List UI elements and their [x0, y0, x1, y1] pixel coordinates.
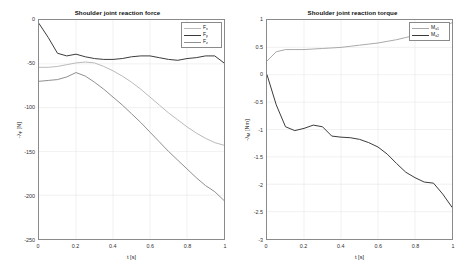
y-tick-torque: -1.5 [242, 154, 263, 160]
y-tick-force: -150 [14, 149, 35, 155]
x-tick-force: 0.6 [146, 243, 154, 249]
y-tick-torque: 0.5 [242, 44, 263, 50]
x-tick-torque: 0.8 [412, 243, 420, 249]
x-tick-force: 1 [224, 243, 227, 249]
legend-torque[interactable]: Mx1 Mx2 [409, 22, 450, 41]
y-tick-torque: -3 [242, 237, 263, 243]
x-tick-torque: 0 [265, 243, 268, 249]
x-tick-force: 0.8 [184, 243, 192, 249]
y-tick-force: -50 [14, 60, 35, 66]
legend-item-Fx[interactable]: Fx [184, 25, 219, 32]
y-tick-torque: -0.5 [242, 99, 263, 105]
x-tick-force: 0 [37, 243, 40, 249]
x-tick-force: 0.4 [109, 243, 117, 249]
plot-area-force [38, 19, 225, 240]
legend-item-Fy[interactable]: Fy [184, 32, 219, 39]
legend-swatch-Fz [184, 42, 201, 43]
y-tick-force: -250 [14, 237, 35, 243]
panel-shoulder-joint-reaction-torque: Shoulder joint reaction torque 10.50-0.5… [235, 0, 470, 273]
x-tick-torque: 0.4 [337, 243, 345, 249]
y-tick-torque: -2 [242, 182, 263, 188]
plot-canvas-torque [267, 20, 452, 239]
x-axis-label-force: t [s] [127, 254, 136, 260]
y-tick-torque: 0 [242, 71, 263, 77]
legend-swatch-Mx1 [412, 28, 429, 29]
y-tick-force: -100 [14, 104, 35, 110]
legend-label-Mx2: Mx2 [431, 32, 439, 39]
x-tick-torque: 0.6 [374, 243, 382, 249]
legend-label-Fz: Fz [203, 39, 208, 46]
legend-item-Fz[interactable]: Fz [184, 39, 219, 46]
x-tick-force: 0.2 [72, 243, 80, 249]
chart-title-force: Shoulder joint reaction force [0, 9, 235, 16]
x-tick-torque: 0.2 [300, 243, 308, 249]
y-axis-label-torque: -λM [Nm] [244, 113, 251, 147]
chart-title-torque: Shoulder joint reaction torque [235, 9, 470, 16]
y-tick-torque: 1 [242, 16, 263, 22]
x-tick-torque: 1 [452, 243, 455, 249]
y-tick-force: 0 [14, 16, 35, 22]
legend-swatch-Fy [184, 35, 201, 36]
legend-item-Mx2[interactable]: Mx2 [412, 32, 447, 39]
x-axis-label-torque: t [s] [355, 254, 364, 260]
legend-swatch-Fx [184, 28, 201, 29]
legend-swatch-Mx2 [412, 35, 429, 36]
plot-area-torque [266, 19, 453, 240]
y-tick-torque: -2.5 [242, 209, 263, 215]
y-tick-force: -200 [14, 193, 35, 199]
plot-canvas-force [39, 20, 224, 239]
panel-shoulder-joint-reaction-force: Shoulder joint reaction force 0-50-100-1… [0, 0, 235, 273]
figure-container: Shoulder joint reaction force 0-50-100-1… [0, 0, 470, 273]
y-axis-label-force: -λF [N] [16, 113, 23, 147]
legend-force[interactable]: Fx Fy Fz [181, 22, 222, 48]
legend-item-Mx1[interactable]: Mx1 [412, 25, 447, 32]
